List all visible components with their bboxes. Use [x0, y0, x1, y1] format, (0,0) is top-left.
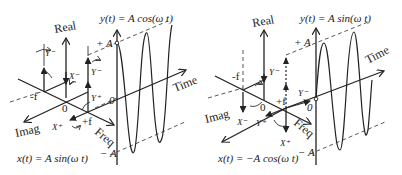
pos-f-label: +f [82, 115, 92, 127]
plus-a-label-right: + A [294, 36, 311, 48]
zero-marker-right [314, 97, 318, 101]
plus-a-label: + A [96, 37, 113, 49]
minus-a-guide-right [310, 122, 385, 154]
diagram-canvas: Real Imag Freq Time -f +f 0 + A 0 − A Y⁻… [0, 0, 402, 175]
zero-label: 0 [109, 94, 115, 106]
sine-wave [316, 32, 372, 150]
real-axis-label-right: Real [251, 12, 276, 30]
pos-f-label-right: +f [276, 95, 286, 107]
rotation-arc-y-minus-right [92, 59, 100, 62]
y-minus-label-left: Y⁻ [45, 48, 56, 58]
time-axis-label: Time [171, 72, 199, 94]
neg-f-label-right: -f [232, 70, 240, 82]
output-equation-left: y(t) = A cos(ω t) [99, 12, 173, 25]
y-plus-label: Y⁺ [91, 93, 102, 103]
rotation-arc-y-plus-right [274, 120, 286, 126]
rotation-arc-y-plus [82, 102, 90, 110]
cosine-wave [117, 25, 172, 153]
pos-f-arrowhead-mid [283, 83, 289, 90]
y-plus-label-right: Y⁺ [256, 118, 267, 128]
minus-a-guide [110, 122, 185, 155]
y-plus-phasor-right [266, 108, 286, 116]
x-minus-label-right: X⁻ [236, 117, 248, 127]
origin-label: 0 [62, 102, 68, 114]
rotation-arc-x-minus [70, 81, 76, 84]
x-plus-label-right: X⁺ [279, 138, 291, 148]
minus-a-label: − A [100, 147, 117, 159]
pos-f-arrowhead-top [283, 57, 289, 64]
y-minus-label-right: Y⁻ [91, 67, 102, 77]
rotation-arc-neg-f [44, 70, 52, 78]
origin-label-right: 0 [260, 101, 266, 113]
plus-a-marker [115, 41, 119, 45]
x-minus-label: X⁻ [68, 71, 80, 81]
output-equation-right: y(t) = A sin(ω t) [299, 12, 371, 25]
neg-f-connector [44, 82, 66, 92]
y-minus-label-top: Y⁻ [269, 67, 280, 77]
imag-axis-label: Imag [14, 121, 41, 140]
real-axis-label: Real [53, 18, 78, 36]
right-panel: Real Imag Freq Time -f +f 0 + A 0 − A Y⁻… [203, 12, 391, 165]
neg-f-label: -f [30, 90, 38, 102]
freq-axis-label-right: Freq [291, 116, 317, 141]
time-axis [88, 70, 186, 112]
neg-f-connector-right [243, 80, 264, 90]
imag-axis-right [222, 108, 286, 142]
minus-a-label-right: − A [298, 146, 315, 158]
y-minus-label-time: Y⁻ [298, 88, 309, 98]
x-plus-label: X⁺ [51, 122, 63, 132]
imag-axis-label-right: Imag [203, 106, 230, 126]
zero-label-right: 0 [307, 101, 313, 113]
input-equation-right: x(t) = −A cos(ω t) [217, 152, 299, 165]
time-axis-label-right: Time [363, 43, 392, 67]
input-equation-left: x(t) = A sin(ω t) [16, 152, 88, 165]
freq-axis-label: Freq [92, 125, 118, 150]
left-panel: Real Imag Freq Time -f +f 0 + A 0 − A Y⁻… [10, 12, 199, 165]
neg-f-guide [10, 91, 44, 102]
neg-f-guide-right [208, 88, 243, 98]
rotation-arc-x-plus [72, 126, 80, 128]
